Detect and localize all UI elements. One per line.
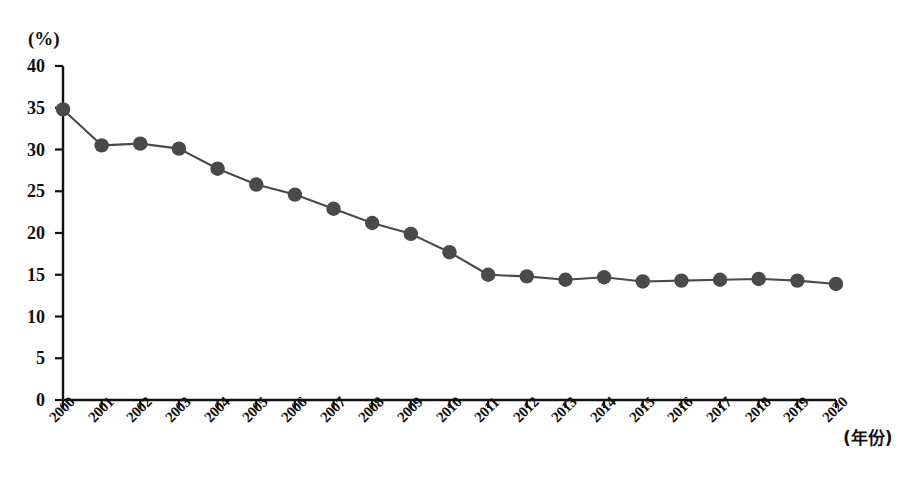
data-point [674, 273, 688, 287]
chart-container: (%) 0510152025303540 2000200120022003200… [0, 0, 910, 484]
data-point [365, 216, 379, 230]
axis-lines [63, 66, 836, 400]
data-point [94, 138, 108, 152]
data-point [133, 136, 147, 150]
data-point [442, 245, 456, 259]
data-point [404, 227, 418, 241]
data-point [558, 273, 572, 287]
x-axis-title: (年份) [843, 424, 893, 449]
data-point [56, 102, 70, 116]
data-point [829, 277, 843, 291]
data-point [636, 274, 650, 288]
data-point [713, 273, 727, 287]
data-point [597, 270, 611, 284]
data-point [326, 202, 340, 216]
data-point-markers [56, 102, 843, 291]
data-point [249, 177, 263, 191]
data-point [210, 162, 224, 176]
data-point [481, 268, 495, 282]
data-point [752, 272, 766, 286]
x-axis-ticks [63, 400, 836, 408]
data-point [172, 141, 186, 155]
data-point [288, 187, 302, 201]
plot-area [0, 0, 910, 484]
data-point [790, 273, 804, 287]
data-point [520, 269, 534, 283]
